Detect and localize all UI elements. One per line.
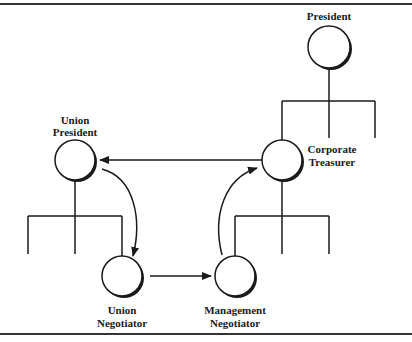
node-president xyxy=(308,26,352,70)
label-union-president-line1: Union xyxy=(61,114,90,126)
label-corporate-treasurer-line2: Treasurer xyxy=(309,156,356,168)
label-president: President xyxy=(307,10,352,22)
label-corporate-treasurer-line1: Corporate xyxy=(308,143,357,155)
node-corporate-treasurer xyxy=(262,140,304,182)
arrow-union-president-to-union-negotiator xyxy=(102,169,137,256)
node-union-president xyxy=(55,140,97,182)
label-union-negotiator-line2: Negotiator xyxy=(97,317,147,329)
communication-diagram: President Corporate Treasurer Management… xyxy=(0,0,412,342)
label-management-negotiator-line1: Management xyxy=(204,304,266,316)
label-management-negotiator-line2: Negotiator xyxy=(210,317,260,329)
node-union-negotiator xyxy=(102,256,144,298)
arrow-management-negotiator-to-treasurer xyxy=(219,168,257,255)
label-union-negotiator-line1: Union xyxy=(108,304,137,316)
node-management-negotiator xyxy=(215,256,257,298)
label-union-president-line2: President xyxy=(53,126,98,138)
